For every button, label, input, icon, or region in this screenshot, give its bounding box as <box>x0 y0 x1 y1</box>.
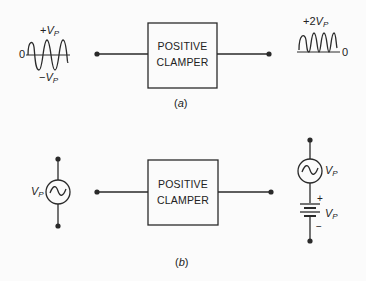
input-peak-positive-label: +VP <box>40 25 59 38</box>
ac-source-input <box>46 160 70 225</box>
dc-vp-label: VP <box>325 208 338 221</box>
caption-a: (a) <box>174 97 187 109</box>
input-sine-wave-icon <box>26 40 70 70</box>
output-terminal-b <box>268 189 273 194</box>
ac-vp-label: VP <box>325 165 338 178</box>
output-peak-label: +2VP <box>303 16 328 29</box>
clamper-label-b: POSITIVE CLAMPER <box>148 176 218 208</box>
output-zero-label: 0 <box>342 47 348 58</box>
clamper-label-a: POSITIVE CLAMPER <box>148 38 217 70</box>
caption-b: (b) <box>175 256 188 268</box>
output-clamped-wave-icon <box>297 33 340 52</box>
source-vp-label: VP <box>31 186 44 199</box>
input-zero-label: 0 <box>19 49 25 60</box>
battery-minus-label: − <box>316 222 322 232</box>
input-peak-negative-label: −VP <box>39 72 58 85</box>
output-terminal-a <box>266 51 271 56</box>
battery-plus-label: + <box>317 194 323 204</box>
positive-clamper-diagram: +VP 0 −VP POSITIVE CLAMPER +2VP 0 (a) VP… <box>0 0 366 281</box>
